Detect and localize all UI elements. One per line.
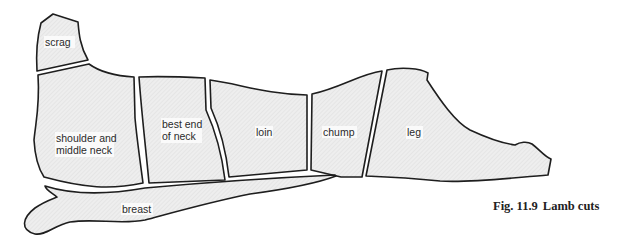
cut-loin: loin xyxy=(210,80,307,177)
label-chump: chump xyxy=(323,126,355,138)
cut-shoulder-and-middle-neck: shoulder and middle neck xyxy=(34,64,143,187)
label-shoulder-line2: middle neck xyxy=(56,144,113,156)
figure-number: Fig. 11.9 xyxy=(493,199,538,213)
label-shoulder-line1: shoulder and xyxy=(56,132,117,144)
label-best-end-line2: of neck xyxy=(162,130,197,142)
label-scrag: scrag xyxy=(45,36,71,48)
cut-scrag: scrag xyxy=(37,14,88,71)
cut-leg: leg xyxy=(366,68,551,181)
figure-caption: Fig. 11.9Lamb cuts xyxy=(493,199,604,214)
label-best-end-line1: best end xyxy=(162,118,202,130)
label-leg: leg xyxy=(407,126,421,138)
label-loin: loin xyxy=(256,126,273,138)
label-breast: breast xyxy=(122,203,151,215)
figure-title: Lamb cuts xyxy=(543,199,600,213)
